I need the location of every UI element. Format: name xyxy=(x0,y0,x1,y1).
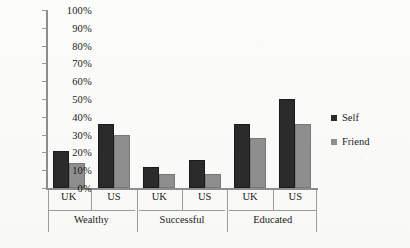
y-axis-tick xyxy=(42,63,47,64)
y-axis-tick xyxy=(42,99,47,100)
bar-group xyxy=(182,10,227,188)
x-axis-subcategory-label: US xyxy=(289,191,302,202)
bar-friend-wealthy-us xyxy=(114,135,130,188)
x-axis-subcategory-label: US xyxy=(107,191,120,202)
y-axis-tick xyxy=(42,46,47,47)
x-axis-group-label: Educated xyxy=(253,214,292,225)
group-separator xyxy=(48,190,49,232)
bar-group xyxy=(91,10,136,188)
y-axis-tick-label: 60% xyxy=(32,76,92,87)
y-axis-tick-label: 80% xyxy=(32,40,92,51)
x-axis-subcategory-label: UK xyxy=(152,191,167,202)
bar-self-wealthy-us xyxy=(98,124,114,188)
y-axis-tick xyxy=(42,10,47,11)
x-axis-subcategory-label: UK xyxy=(242,191,257,202)
bar-friend-successful-uk xyxy=(159,174,175,188)
bar-self-successful-us xyxy=(189,160,205,188)
bar-self-educated-us xyxy=(279,99,295,188)
group-separator xyxy=(227,190,228,232)
bar-friend-educated-us xyxy=(295,124,311,188)
y-axis-tick xyxy=(42,188,47,189)
bar-group xyxy=(273,10,318,188)
legend: SelfFriend xyxy=(331,112,369,147)
x-axis-group-labels: WealthySuccessfulEducated xyxy=(46,211,318,233)
legend-item-friend: Friend xyxy=(331,136,369,147)
bar-self-educated-uk xyxy=(234,124,250,188)
y-axis-tick-label: 40% xyxy=(32,111,92,122)
bar-group xyxy=(137,10,182,188)
y-axis-tick xyxy=(42,28,47,29)
y-axis-tick-label: 100% xyxy=(32,5,92,16)
legend-swatch-icon xyxy=(331,115,337,121)
grouped-bar-chart: UKUSUKUSUKUS WealthySuccessfulEducated S… xyxy=(0,0,410,248)
subcategory-separator xyxy=(273,190,274,211)
legend-label: Self xyxy=(342,112,359,123)
x-axis-subcategory-label: US xyxy=(198,191,211,202)
y-axis-tick-label: 50% xyxy=(32,94,92,105)
y-axis-tick xyxy=(42,81,47,82)
y-axis-tick-label: 90% xyxy=(32,22,92,33)
y-axis-tick-label: 30% xyxy=(32,129,92,140)
group-separator xyxy=(137,190,138,232)
legend-item-self: Self xyxy=(331,112,369,123)
y-axis-tick-label: 70% xyxy=(32,58,92,69)
legend-swatch-icon xyxy=(331,139,337,145)
legend-label: Friend xyxy=(342,136,369,147)
subcategory-separator xyxy=(91,190,92,211)
y-axis-tick xyxy=(42,152,47,153)
y-axis-tick-label: 0% xyxy=(32,183,92,194)
y-axis-tick-label: 10% xyxy=(32,165,92,176)
x-axis-group-label: Successful xyxy=(160,214,205,225)
bar-friend-successful-us xyxy=(205,174,221,188)
subcategory-separator xyxy=(182,190,183,211)
bar-group xyxy=(227,10,272,188)
group-separator xyxy=(316,190,317,232)
x-axis-group-label: Wealthy xyxy=(74,214,109,225)
bar-self-successful-uk xyxy=(143,167,159,188)
y-axis-tick xyxy=(42,117,47,118)
y-axis-tick xyxy=(42,135,47,136)
y-axis-tick-label: 20% xyxy=(32,147,92,158)
bar-friend-educated-uk xyxy=(250,138,266,188)
y-axis-tick xyxy=(42,170,47,171)
